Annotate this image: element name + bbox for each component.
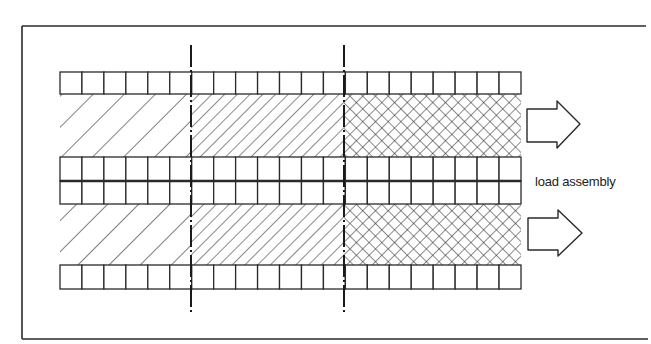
coarse-hatch-zone [60, 94, 191, 157]
cell [301, 157, 323, 181]
cell [170, 181, 192, 204]
cell [367, 265, 389, 289]
cell [389, 157, 411, 181]
cell [214, 72, 236, 94]
fine-hatch-zone [191, 204, 344, 265]
cell [345, 181, 367, 204]
cell [148, 157, 170, 181]
cell [280, 265, 302, 289]
cell [192, 157, 214, 181]
cell [389, 181, 411, 204]
middle-cell-row-upper [60, 157, 521, 181]
cell [455, 265, 477, 289]
cell [433, 157, 455, 181]
cell [192, 72, 214, 94]
cell [455, 72, 477, 94]
cell [126, 265, 148, 289]
cell [389, 265, 411, 289]
cell [236, 181, 258, 204]
cell [499, 157, 521, 181]
cell [236, 72, 258, 94]
cell [280, 181, 302, 204]
cell [477, 265, 499, 289]
coarse-hatch-zone [60, 204, 191, 265]
cell [236, 157, 258, 181]
cell [367, 157, 389, 181]
cell [126, 181, 148, 204]
cell [499, 181, 521, 204]
cell [192, 181, 214, 204]
cell [258, 72, 280, 94]
cell [126, 157, 148, 181]
cell [214, 265, 236, 289]
cell [301, 72, 323, 94]
cell [323, 157, 345, 181]
cell [170, 72, 192, 94]
cell [433, 181, 455, 204]
cell [60, 181, 82, 204]
cell [214, 181, 236, 204]
cell [499, 72, 521, 94]
cell [477, 72, 499, 94]
cell [104, 157, 126, 181]
cell [389, 72, 411, 94]
lower-material-band [60, 204, 521, 265]
cell [345, 72, 367, 94]
cell [258, 265, 280, 289]
cell [367, 72, 389, 94]
cell [323, 265, 345, 289]
cell [280, 157, 302, 181]
cell [367, 181, 389, 204]
cell [280, 72, 302, 94]
cell [301, 265, 323, 289]
middle-cell-row-lower [60, 181, 521, 204]
cell [104, 72, 126, 94]
cell [148, 181, 170, 204]
cell [455, 157, 477, 181]
cell [148, 72, 170, 94]
cell [323, 72, 345, 94]
load-assembly-diagram [0, 0, 651, 344]
cell [60, 265, 82, 289]
cell [60, 72, 82, 94]
cell [170, 157, 192, 181]
cell [126, 72, 148, 94]
cell [82, 72, 104, 94]
bottom-cell-row [60, 265, 521, 289]
cell [104, 181, 126, 204]
fine-hatch-zone [191, 94, 344, 157]
load-assembly-label: load assembly [535, 174, 616, 189]
cell [411, 265, 433, 289]
cell [301, 181, 323, 204]
cell [60, 157, 82, 181]
cell [82, 181, 104, 204]
cell [258, 157, 280, 181]
cell [499, 265, 521, 289]
arrow-right-icon [528, 210, 582, 256]
cell [148, 265, 170, 289]
cell [82, 157, 104, 181]
cell [170, 265, 192, 289]
crosshatch-zone [344, 204, 521, 265]
cell [411, 72, 433, 94]
cell [433, 265, 455, 289]
cell [345, 157, 367, 181]
cell [323, 181, 345, 204]
cell [433, 72, 455, 94]
cell [411, 181, 433, 204]
cell [258, 181, 280, 204]
upper-material-band [60, 94, 521, 157]
cell [192, 265, 214, 289]
cell [82, 265, 104, 289]
cell [236, 265, 258, 289]
cell [455, 181, 477, 204]
cell [345, 265, 367, 289]
cell [411, 157, 433, 181]
cell [477, 157, 499, 181]
arrow-right-icon [527, 101, 580, 148]
crosshatch-zone [344, 94, 521, 157]
cell [104, 265, 126, 289]
cell [477, 181, 499, 204]
top-cell-row [60, 72, 521, 94]
cell [214, 157, 236, 181]
